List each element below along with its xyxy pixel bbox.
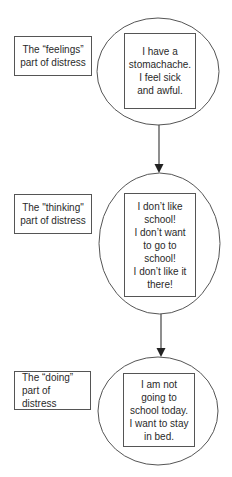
stage-3-content: I am not going to school today. I want t… xyxy=(123,373,195,447)
arrow-down-icon xyxy=(157,314,166,357)
stage-2-label: The "thinking" part of distress xyxy=(14,194,92,234)
stage-3-label-text: The “doing” part of distress xyxy=(22,371,86,410)
stage-1-label-text: The “feelings” part of distress xyxy=(20,43,86,69)
stage-3-label: The “doing” part of distress xyxy=(14,371,91,410)
stage-2-label-text: The "thinking" part of distress xyxy=(20,201,86,227)
stage-2-content: I don’t like school! I don’t want to go … xyxy=(124,193,196,297)
stage-1-label: The “feelings” part of distress xyxy=(14,36,92,76)
stage-1-content: I have a stomachache. I feel sick and aw… xyxy=(124,33,196,109)
arrow-down-icon xyxy=(155,125,164,173)
